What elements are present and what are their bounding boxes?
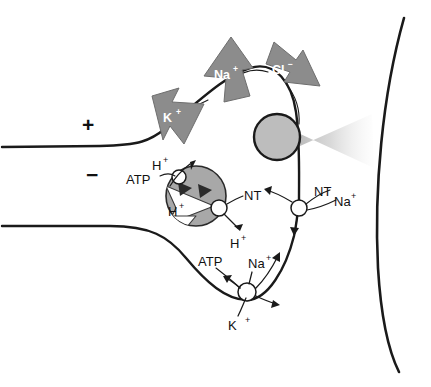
na-arrow-charge: + [233,64,238,74]
diagram-canvas: K + Na + Cl − + − [0,0,431,387]
sodium-influx-arrow: Na + [204,37,253,102]
membrane-sodium-label: Na [334,194,351,209]
membrane-sodium-charge: + [351,191,356,201]
sodium-potassium-atpase [238,283,256,301]
pump-sodium-charge: + [266,253,271,263]
synapse-diagram: K + Na + Cl − + − [0,0,431,387]
nt-symporter-down-head [290,227,299,236]
vesicular-nt-antiporter [211,200,227,216]
neurotransmitter-release-plume [296,114,374,168]
fusing-vesicle [254,114,300,160]
vesicular-atp-label: ATP [126,172,150,187]
pump-export-arrowhead [271,300,280,308]
proton-out-label: H [152,158,161,173]
cl-arrow-label: Cl [272,63,285,77]
nt-uptake-arrowhead [264,186,272,195]
proton-out-charge: + [163,155,168,165]
pump-sodium-in-line [249,272,252,284]
pump-atp-arrowhead [223,275,232,283]
release-site-group [254,114,374,168]
pump-atp-label: ATP [198,254,222,269]
vesicular-nt-leader [227,196,243,204]
synaptic-vesicle-group: ATP H + H + NT H + [126,155,261,251]
vesicle-chevron-lower [160,216,196,230]
chloride-influx-arrow: Cl − [266,42,320,86]
proton-exchange-charge: + [241,233,246,243]
proton-exchange-label: H [230,236,239,251]
proton-interior-charge: + [179,201,184,211]
vesicular-proton-atpase [172,170,186,184]
nt-symporter-leader-na [307,200,336,210]
pump-sodium-label: Na [248,256,265,271]
lower-axon-membrane [2,200,299,300]
sodium-potassium-pump-group: ATP Na + K + [198,252,280,333]
polarity-outside-plus: + [82,113,94,136]
potassium-efflux-arrow: K + [152,88,204,144]
k-arrow-charge: + [176,107,181,117]
na-arrow-label: Na [214,68,231,82]
k-arrow-label: K [163,111,172,125]
vesicular-nt-label: NT [244,188,261,203]
nt-sodium-symporter-group: NT Na + [264,184,356,236]
pump-potassium-charge: + [245,315,250,325]
membrane-nt-label: NT [314,184,331,199]
pump-potassium-label: K [228,318,237,333]
nt-sodium-symporter [291,200,307,216]
cl-arrow-charge: − [288,59,293,69]
postsynaptic-membrane [377,18,404,372]
proton-interior-label: H [168,204,177,219]
polarity-inside-minus: − [86,163,98,186]
